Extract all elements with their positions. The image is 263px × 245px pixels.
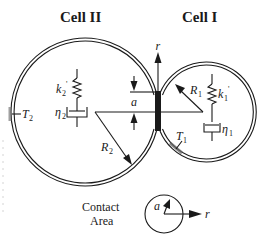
svg-text:2: 2: [62, 89, 66, 98]
cell-ii-title: Cell II: [60, 9, 101, 25]
cell-ii-viscoelastic-element: k 2 ' η 2: [55, 69, 87, 127]
contact-area-inset: Contact Area a r: [82, 195, 210, 233]
cell-i-title: Cell I: [182, 9, 218, 25]
r1-radius-arrow: R 1: [175, 83, 203, 112]
svg-text:1: 1: [198, 90, 202, 99]
spring-icon: [208, 84, 216, 104]
contact-zone-bar: [155, 91, 161, 131]
eta1-label: η: [222, 122, 228, 136]
cell-i-viscoelastic-element: k 1 ' η 1: [204, 74, 233, 141]
svg-text:1: 1: [224, 94, 228, 103]
svg-text:1: 1: [183, 136, 187, 145]
svg-text:1: 1: [229, 129, 233, 138]
r2-label: R: [100, 140, 109, 154]
dashpot-icon: [67, 106, 87, 127]
r-axis-arrow: r: [155, 39, 162, 91]
svg-text:': ': [66, 80, 68, 89]
contact-area-title-line2: Area: [90, 214, 114, 228]
contact-radius-label: a: [131, 95, 137, 109]
contact-radius-dimension: a: [95, 76, 203, 130]
r1-label: R: [189, 83, 198, 97]
contact-area-title-line1: Contact: [82, 200, 120, 214]
spring-icon: [73, 78, 81, 98]
tension-t2-marker: T 2: [9, 107, 34, 123]
r-axis-label: r: [156, 39, 161, 53]
r2-radius-arrow: R 2: [95, 112, 132, 165]
inset-r-label: r: [205, 207, 210, 221]
svg-text:2: 2: [109, 147, 113, 156]
cell-adhesion-diagram: Cell II Cell I T 2 T 1 r: [0, 0, 263, 245]
svg-text:2: 2: [29, 114, 33, 123]
dashpot-icon: [204, 123, 220, 141]
inset-a-label: a: [154, 199, 160, 213]
svg-text:': ': [228, 85, 230, 94]
svg-text:2: 2: [62, 112, 66, 121]
eta2-label: η: [55, 105, 61, 119]
